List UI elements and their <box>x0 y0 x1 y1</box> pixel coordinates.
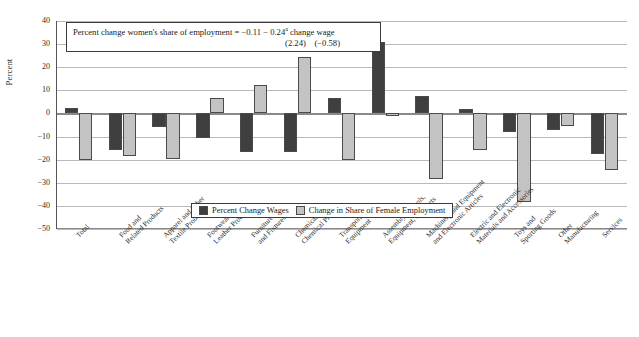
bar-wages <box>284 113 297 151</box>
y-tick-label--10: −10 <box>24 133 50 141</box>
equation-text-prefix: Percent change women's share of employme… <box>73 27 285 37</box>
equation-line-1: Percent change women's share of employme… <box>73 26 374 38</box>
bar-wages <box>459 109 472 114</box>
legend-swatch-wages <box>199 206 208 215</box>
bar-group <box>539 21 583 229</box>
bar-wages <box>65 108 78 114</box>
chart-legend: Percent Change WagesChange in Share of F… <box>191 203 453 218</box>
bar-wages <box>240 113 253 151</box>
y-tick-label--20: −20 <box>24 156 50 164</box>
regression-equation-annotation: Percent change women's share of employme… <box>66 22 381 52</box>
legend-item: Percent Change Wages <box>199 206 289 215</box>
bar-female-share <box>473 113 486 150</box>
bar-female-share <box>210 98 223 113</box>
y-tick-label-40: 40 <box>24 17 50 25</box>
x-axis-category-labels: TotalFood andRelated ProductsApparel and… <box>56 229 626 337</box>
y-tick-label--50: −50 <box>24 225 50 233</box>
y-tick-label--40: −40 <box>24 202 50 210</box>
bar-female-share <box>429 113 442 179</box>
legend-item: Change in Share of Female Employment <box>296 206 446 215</box>
y-tick-label-20: 20 <box>24 63 50 71</box>
bar-wages <box>503 113 516 131</box>
bar-female-share <box>254 85 267 114</box>
bar-wages <box>547 113 560 129</box>
bar-female-share <box>79 113 92 159</box>
bar-wages <box>328 98 341 113</box>
y-tick-label-0: 0 <box>24 109 50 117</box>
bar-wages <box>109 113 122 150</box>
bar-group <box>583 21 627 229</box>
y-tick-label-30: 30 <box>24 40 50 48</box>
bar-female-share <box>166 113 179 158</box>
bar-chart: Percent 403020100−10−20−30−40−50 Percent… <box>0 0 639 337</box>
bar-wages <box>591 113 604 153</box>
y-tick-label-10: 10 <box>24 86 50 94</box>
legend-label: Change in Share of Female Employment <box>309 206 446 215</box>
bar-wages <box>196 113 209 137</box>
equation-text-suffix: change wage <box>288 27 335 37</box>
y-axis-tick-labels: 403020100−10−20−30−40−50 <box>22 0 50 337</box>
bar-female-share <box>123 113 136 156</box>
bar-female-share <box>298 57 311 114</box>
y-tick-label--30: −30 <box>24 179 50 187</box>
equation-line-2: (2.24) (−0.58) <box>73 38 374 49</box>
legend-label: Percent Change Wages <box>212 206 289 215</box>
bar-female-share <box>342 113 355 159</box>
bar-wages <box>152 113 165 127</box>
bar-female-share <box>561 113 574 126</box>
bar-female-share <box>386 113 399 115</box>
y-axis-title: Percent <box>4 32 14 112</box>
legend-swatch-female <box>296 206 305 215</box>
bar-wages <box>372 42 385 114</box>
bar-wages <box>415 96 428 113</box>
bar-female-share <box>605 113 618 170</box>
